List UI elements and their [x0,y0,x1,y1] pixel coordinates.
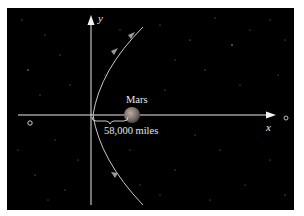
direction-arrow-icon [111,172,118,178]
starfield [18,18,286,201]
x-axis [18,112,276,119]
direction-arrow-icon [128,32,135,39]
diagram-canvas: x y Mars 58,000 miles [0,0,304,216]
x-axis-arrowhead-icon [266,112,276,119]
y-axis-label: y [97,12,103,24]
trajectory-direction-markers [111,32,135,178]
distance-brace [92,117,128,124]
small-moon-left-icon [28,121,32,125]
planet-label: Mars [126,94,148,105]
x-axis-label: x [265,121,271,133]
y-axis-arrowhead-icon [88,15,95,25]
small-moon-right-icon [284,116,288,120]
direction-arrow-icon [111,48,118,55]
distance-label: 58,000 miles [104,125,158,136]
